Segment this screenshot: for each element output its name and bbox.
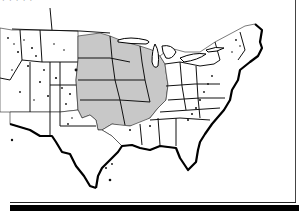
frame-right-border xyxy=(295,0,296,203)
western-states xyxy=(0,8,78,112)
frame-bottom-border xyxy=(10,202,296,203)
bottom-black-bar xyxy=(10,205,299,211)
us-map xyxy=(0,0,299,211)
